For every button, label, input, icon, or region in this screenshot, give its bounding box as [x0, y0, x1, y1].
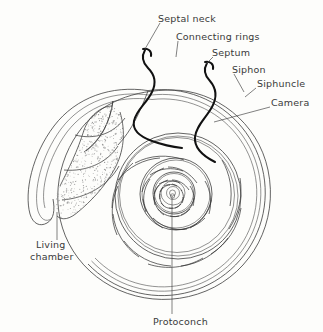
label-siphon: Siphon	[232, 64, 266, 75]
label-living-chamber-line2: chamber	[30, 251, 74, 262]
leader-septal-neck	[145, 23, 160, 49]
nautilus-diagram: Septal neck Connecting rings Septum Siph…	[0, 0, 323, 332]
label-septal-neck: Septal neck	[158, 13, 216, 24]
label-protoconch: Protoconch	[153, 316, 208, 327]
fourth-whorl-wall	[153, 172, 195, 214]
leader-connecting-rings	[176, 41, 178, 57]
leader-siphuncle	[245, 88, 256, 97]
leader-siphon	[234, 74, 244, 92]
septa-second-whorl	[112, 156, 241, 267]
label-connecting-rings: Connecting rings	[176, 31, 260, 42]
label-camera: Camera	[271, 97, 309, 108]
aperture-lip	[28, 89, 152, 224]
shell-wall	[58, 90, 271, 299]
label-living-chamber-line1: Living	[36, 239, 65, 250]
inner-whorl-wall	[115, 133, 241, 259]
label-siphuncle: Siphuncle	[257, 78, 305, 89]
label-septum: Septum	[212, 47, 250, 58]
